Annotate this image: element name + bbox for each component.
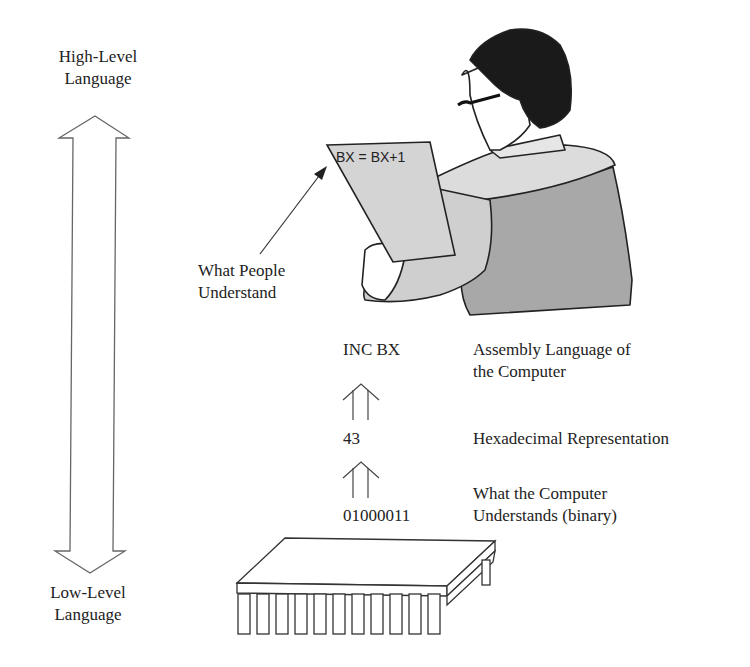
label-line: Understand: [198, 282, 285, 304]
high-level-language-label: High-Level Language: [48, 46, 148, 90]
hex-code: 43: [343, 428, 360, 450]
up-arrow-icon: [343, 462, 379, 498]
label-line: Assembly Language of: [473, 339, 631, 361]
chip-pins: [238, 594, 440, 634]
label-line: Hexadecimal Representation: [473, 428, 669, 450]
pointer-arrow-icon: [260, 166, 327, 254]
label-line: Language: [48, 68, 148, 90]
up-arrow-icon: [343, 384, 379, 420]
assembly-code: INC BX: [343, 339, 400, 361]
paper-illustration: BX = BX+1: [327, 142, 455, 262]
label-line: Language: [38, 604, 138, 626]
double-arrow-icon: [55, 116, 129, 573]
assembly-description: Assembly Language of the Computer: [473, 339, 631, 383]
label-line: the Computer: [473, 361, 631, 383]
hex-description: Hexadecimal Representation: [473, 428, 669, 450]
label-line: What People: [198, 260, 285, 282]
label-line: High-Level: [48, 46, 148, 68]
label-line: Low-Level: [38, 582, 138, 604]
what-people-understand-label: What People Understand: [198, 260, 285, 304]
low-level-language-label: Low-Level Language: [38, 582, 138, 626]
binary-code: 01000011: [343, 505, 410, 527]
paper-text: BX = BX+1: [336, 149, 405, 165]
label-line: Understands (binary): [473, 505, 617, 527]
label-line: What the Computer: [473, 483, 617, 505]
diagram-graphics: BX = BX+1: [0, 0, 750, 667]
binary-description: What the Computer Understands (binary): [473, 483, 617, 527]
microchip-illustration: [237, 538, 495, 634]
